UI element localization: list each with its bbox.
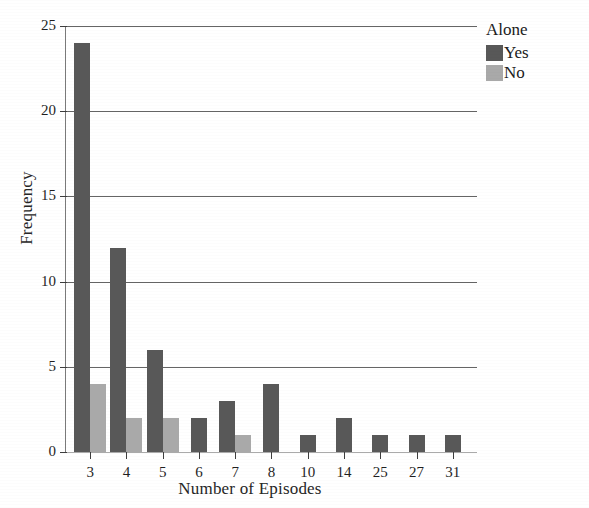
- y-tick-mark: [60, 452, 67, 453]
- legend-label-yes: Yes: [504, 44, 529, 62]
- legend-swatch-no: [486, 65, 503, 81]
- y-tick-label: 10: [20, 274, 56, 289]
- bar-group: 6: [181, 26, 217, 452]
- bar-group: 31: [435, 26, 471, 452]
- plot-area: 0510152025 3456781014252731: [66, 26, 477, 452]
- y-axis-title: Frequency: [17, 148, 37, 268]
- legend-entry-no: No: [486, 64, 586, 82]
- y-tick-label: 15: [20, 188, 56, 203]
- bar-group: 3: [72, 26, 108, 452]
- x-tick-label: 3: [70, 465, 110, 480]
- y-tick-label: 0: [20, 444, 56, 459]
- x-tick-mark: [308, 452, 309, 459]
- bar-group: 5: [145, 26, 181, 452]
- bar-yes-8: [263, 384, 279, 452]
- bar-no-7: [235, 435, 251, 452]
- x-tick-label: 7: [215, 465, 255, 480]
- x-tick-mark: [163, 452, 164, 459]
- bar-group: 25: [362, 26, 398, 452]
- x-tick-mark: [199, 452, 200, 459]
- x-tick-label: 6: [179, 465, 219, 480]
- x-tick-label: 5: [143, 465, 183, 480]
- bar-group: 14: [326, 26, 362, 452]
- legend: Alone YesNo: [486, 20, 586, 84]
- x-tick-label: 25: [360, 465, 400, 480]
- bar-no-5: [163, 418, 179, 452]
- bar-yes-14: [336, 418, 352, 452]
- bar-yes-6: [191, 418, 207, 452]
- x-tick-label: 4: [106, 465, 146, 480]
- bar-yes-5: [147, 350, 163, 452]
- x-tick-mark: [90, 452, 91, 459]
- bar-chart-figure: Frequency Number of Episodes 0510152025 …: [0, 0, 589, 508]
- y-tick-label: 25: [20, 18, 56, 33]
- bar-group: 7: [217, 26, 253, 452]
- x-tick-mark: [126, 452, 127, 459]
- legend-entry-yes: Yes: [486, 44, 586, 62]
- legend-label-no: No: [504, 64, 525, 82]
- x-tick-label: 27: [397, 465, 437, 480]
- x-tick-label: 8: [251, 465, 291, 480]
- x-tick-mark: [235, 452, 236, 459]
- x-tick-mark: [380, 452, 381, 459]
- y-tick-label: 5: [20, 359, 56, 374]
- x-tick-mark: [344, 452, 345, 459]
- x-tick-mark: [453, 452, 454, 459]
- y-tick-label: 20: [20, 103, 56, 118]
- bar-yes-31: [445, 435, 461, 452]
- x-tick-label: 10: [288, 465, 328, 480]
- bar-group: 10: [290, 26, 326, 452]
- bar-yes-4: [110, 248, 126, 452]
- bar-yes-25: [372, 435, 388, 452]
- bar-group: 4: [108, 26, 144, 452]
- bar-series-container: 3456781014252731: [66, 26, 477, 452]
- bar-yes-10: [300, 435, 316, 452]
- bar-no-3: [90, 384, 106, 452]
- x-tick-label: 14: [324, 465, 364, 480]
- legend-entries: YesNo: [486, 44, 586, 82]
- x-tick-mark: [417, 452, 418, 459]
- bar-no-4: [126, 418, 142, 452]
- x-tick-mark: [271, 452, 272, 459]
- bar-yes-7: [219, 401, 235, 452]
- legend-title: Alone: [486, 20, 586, 39]
- bar-group: 8: [253, 26, 289, 452]
- bar-group: 27: [398, 26, 434, 452]
- bar-yes-27: [409, 435, 425, 452]
- x-axis-title: Number of Episodes: [60, 479, 440, 499]
- x-tick-label: 31: [433, 465, 473, 480]
- legend-swatch-yes: [486, 45, 503, 61]
- bar-yes-3: [74, 43, 90, 452]
